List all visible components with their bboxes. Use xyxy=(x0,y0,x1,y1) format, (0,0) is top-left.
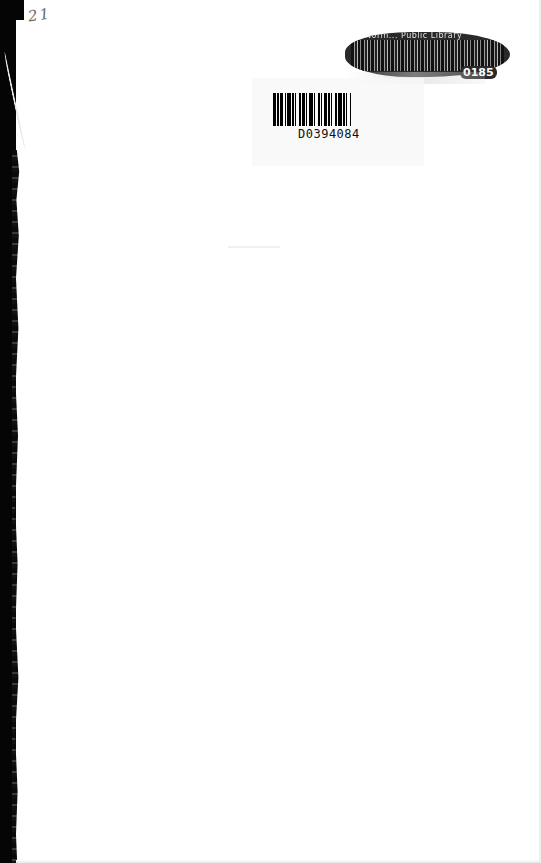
accession-number: D0394084 xyxy=(298,127,360,141)
barcode-gap xyxy=(351,93,353,126)
torn-page-edge xyxy=(12,150,20,863)
faint-pencil-mark xyxy=(228,246,280,248)
handwritten-number: 21 xyxy=(27,4,52,25)
library-barcode-header: Norm... Public Library xyxy=(365,32,462,40)
accession-barcode xyxy=(273,93,413,126)
spine-corner xyxy=(16,0,24,20)
